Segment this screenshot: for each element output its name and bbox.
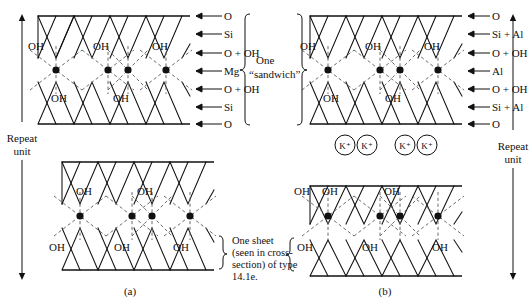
panel-a-oh-label: OH xyxy=(28,40,44,52)
figure-container: OH OH OH OH OH O Si O + OH Mg O + OH Si … xyxy=(0,0,529,304)
panel-b-layer-label: O xyxy=(492,118,500,130)
sheet-note-line-4: 14.1e. xyxy=(232,271,258,282)
panel-b-layer-label: Si + Al xyxy=(492,101,523,113)
panel-b-top-sandwich: OH OH OH OH OH xyxy=(300,16,464,124)
panel-a2-oh-label: OH xyxy=(173,241,189,253)
panel-b-caption: (b) xyxy=(379,285,392,298)
panel-b-oh-label: OH xyxy=(365,40,381,52)
panel-b-oh-label: OH xyxy=(424,40,440,52)
panel-a-top-sandwich: OH OH OH OH OH xyxy=(28,16,192,124)
panel-a-bottom-sandwich: OH OH OH OH OH xyxy=(49,162,216,270)
panel-a-layer-label: O xyxy=(224,118,232,130)
panel-b-interlayer-ions: K⁺ K⁺ K⁺ K⁺ xyxy=(335,135,437,155)
k-ion-label: K⁺ xyxy=(361,141,373,151)
panel-a-layer-label: Si xyxy=(224,28,233,40)
panel-b-repeat-unit-label-1: Repeat xyxy=(498,140,529,152)
panel-b2-oh-label: OH xyxy=(322,185,338,197)
panel-a-caption: (a) xyxy=(124,285,137,298)
panel-a-sandwich-note-1: One xyxy=(256,54,274,66)
panel-b-oh-label: OH xyxy=(385,92,401,104)
panel-b2-oh-label: OH xyxy=(362,241,378,253)
panel-b-layer-label: Al xyxy=(492,65,503,77)
panel-b-layer-label: O xyxy=(492,10,500,22)
panel-a-layer-label: O + OH xyxy=(224,47,260,59)
panel-a2-oh-label: OH xyxy=(76,185,92,197)
panel-a-layer-label: O + OH xyxy=(224,83,260,95)
panel-a2-oh-label: OH xyxy=(114,241,130,253)
sheet-note-line-1: One sheet xyxy=(232,235,274,246)
panel-b-layer-annotations: O Si + Al O + OH Al O + OH Si + Al O xyxy=(468,10,528,130)
clay-structure-diagram: OH OH OH OH OH O Si O + OH Mg O + OH Si … xyxy=(0,0,529,304)
panel-a-oh-label: OH xyxy=(51,92,67,104)
panel-a-repeat-unit-label-1: Repeat xyxy=(7,132,38,144)
panel-a-layer-label: Si xyxy=(224,101,233,113)
panel-a-sheet-note: One sheet (seen in cross- section) of ty… xyxy=(219,235,298,282)
panel-a2-oh-label: OH xyxy=(49,241,65,253)
panel-a2-bottom-tetrahedral-band xyxy=(62,228,214,270)
k-ion-label: K⁺ xyxy=(399,141,411,151)
panel-b-layer-label: O + OH xyxy=(492,47,528,59)
k-ion-label: K⁺ xyxy=(421,141,433,151)
panel-a-sandwich-note-2: “sandwich” xyxy=(249,68,300,80)
panel-b2-oh-label: OH xyxy=(384,185,400,197)
panel-a-oh-label: OH xyxy=(152,40,168,52)
panel-b2-oh-label: OH xyxy=(294,185,310,197)
k-ion-label: K⁺ xyxy=(339,141,351,151)
panel-b-layer-label: Si + Al xyxy=(492,28,523,40)
sheet-note-line-2: (seen in cross- xyxy=(232,247,293,259)
panel-a2-top-tetrahedral-band xyxy=(62,162,214,204)
panel-b2-oh-label: OH xyxy=(432,241,448,253)
panel-a2-oh-label: OH xyxy=(137,185,153,197)
panel-b-layer-label: O + OH xyxy=(492,83,528,95)
panel-b2-oh-label: OH xyxy=(297,241,313,253)
panel-a-layer-label: Mg xyxy=(224,65,240,77)
panel-a-oh-label: OH xyxy=(113,92,129,104)
panel-a-oh-label: OH xyxy=(93,40,109,52)
panel-b-bottom-sandwich: OH OH OH OH OH OH xyxy=(294,185,464,276)
panel-b-repeat-unit-label-2: unit xyxy=(504,153,521,165)
panel-b-oh-label: OH xyxy=(323,92,339,104)
sheet-note-line-3: section) of type xyxy=(232,259,298,271)
panel-a-layer-label: O xyxy=(224,10,232,22)
panel-a-repeat-unit-label-2: unit xyxy=(13,145,30,157)
panel-a-repeat-unit: Repeat unit xyxy=(7,14,38,280)
panel-a-sandwich-brace: One “sandwich” xyxy=(240,14,300,125)
